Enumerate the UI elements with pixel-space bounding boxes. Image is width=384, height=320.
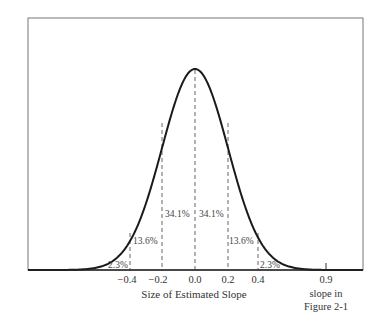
tick-label-neg-0.4: −0.4 [117,274,136,285]
pct-center-right: 34.1% [199,209,224,219]
pct-right: 13.6% [229,236,254,246]
pct-far-right: 2.3% [260,260,280,270]
pct-left: 13.6% [133,236,158,246]
pct-center-left: 34.1% [165,209,190,219]
tick-label-0.9: 0.9 [319,274,332,285]
tick-label-neg-0.2: −0.2 [148,274,167,285]
annotation-line1: slope in [310,288,343,299]
tick-label-0.0: 0.0 [188,274,201,285]
tick-label-0.4: 0.4 [251,274,264,285]
tick-label-0.2: 0.2 [221,274,234,285]
normal-curve-diagram [0,0,384,320]
pct-far-left: 2.3% [108,260,128,270]
x-axis-title: Size of Estimated Slope [141,288,246,300]
annotation-line2: Figure 2-1 [304,301,348,312]
